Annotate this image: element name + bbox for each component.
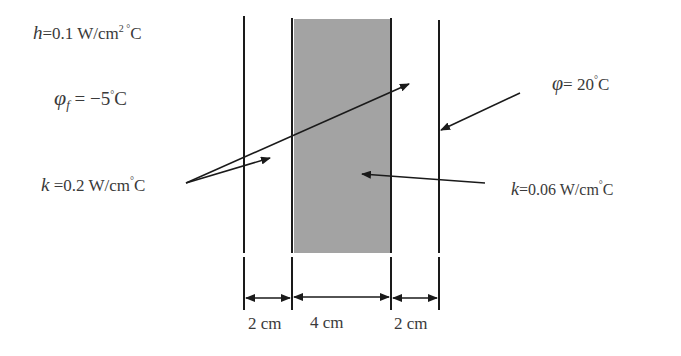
k-inner-unit: C: [603, 181, 614, 198]
h-symbol: h: [33, 22, 43, 43]
h-unit: C: [130, 24, 141, 43]
insulation-layer: [294, 19, 390, 253]
fluid-temperature-label: φf = −5°C: [54, 85, 127, 113]
k-inner-symbol: k: [511, 179, 519, 199]
k-outer-value: =0.2 W/cm: [49, 176, 130, 195]
phi-unit: C: [598, 75, 609, 94]
insulation-conductivity-label: k=0.06 W/cm°C: [511, 179, 614, 200]
k-outer-unit: C: [134, 176, 145, 195]
dimension-label-right: 2 cm: [394, 314, 428, 334]
dimension-label-left: 2 cm: [248, 314, 282, 334]
phi-leader: [441, 93, 520, 130]
phi-symbol: φ: [552, 72, 563, 94]
phi-value: = 20: [563, 75, 594, 94]
phi-f-value: = −5: [70, 88, 110, 109]
h-value: =0.1 W/cm: [43, 24, 119, 43]
k-outer-leader-left: [186, 158, 270, 183]
dimension-arrows: [246, 297, 437, 298]
phi-f-unit: C: [114, 88, 127, 109]
convection-coefficient-label: h=0.1 W/cm2 °C: [33, 22, 142, 44]
composite-wall-diagram: h=0.1 W/cm2 °C φf = −5°C φ= 20°C k =0.2 …: [0, 0, 681, 356]
dimension-label-center: 4 cm: [310, 313, 344, 333]
k-inner-value: =0.06 W/cm: [519, 181, 599, 198]
h-superscript: 2 °: [119, 23, 131, 34]
outer-layer-conductivity-label: k =0.2 W/cm°C: [41, 174, 145, 196]
phi-f-symbol: φ: [54, 85, 66, 110]
outer-temperature-label: φ= 20°C: [552, 72, 609, 95]
